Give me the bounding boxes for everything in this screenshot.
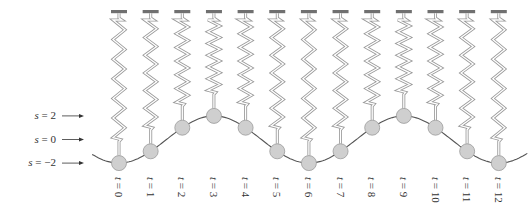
mass-12 <box>491 156 506 171</box>
arrow-head-icon <box>79 114 84 118</box>
mass-8 <box>365 120 380 135</box>
mount-bar <box>428 10 444 13</box>
level-label-s2: s = 2 <box>35 109 57 121</box>
mass-5 <box>270 144 285 159</box>
mass-1 <box>143 144 158 159</box>
spring-11 <box>459 10 475 144</box>
arrow-head-icon <box>79 161 84 165</box>
mount-bar <box>301 10 317 13</box>
spring-5 <box>269 10 285 144</box>
time-label-t4: t = 4 <box>240 177 252 197</box>
mass-6 <box>301 156 316 171</box>
level-label-s-2: s = −2 <box>28 156 56 168</box>
time-label-t10: t = 10 <box>430 177 442 203</box>
mass-10 <box>428 120 443 135</box>
time-label-t8: t = 8 <box>366 177 378 197</box>
spring-8 <box>364 10 380 120</box>
mount-bar <box>364 10 380 13</box>
spring-0 <box>111 10 127 156</box>
mount-bar <box>238 10 254 13</box>
mass-7 <box>333 144 348 159</box>
mount-bar <box>459 10 475 13</box>
mass-0 <box>112 156 127 171</box>
spring-mass-diagram <box>0 0 530 209</box>
time-label-t11: t = 11 <box>461 177 473 202</box>
mount-bar <box>174 10 190 13</box>
time-label-t9: t = 9 <box>398 177 410 197</box>
mount-bar <box>396 10 412 13</box>
mount-bar <box>111 10 127 13</box>
spring-3 <box>206 10 222 108</box>
level-arrows <box>62 114 84 165</box>
mount-bar <box>269 10 285 13</box>
mass-9 <box>396 108 411 123</box>
time-label-t6: t = 6 <box>303 177 315 197</box>
spring-9 <box>396 10 412 108</box>
spring-10 <box>428 10 444 120</box>
mass-11 <box>460 144 475 159</box>
spring-1 <box>143 10 159 144</box>
spring-6 <box>301 10 317 156</box>
time-label-t0: t = 0 <box>113 177 125 197</box>
mass-2 <box>175 120 190 135</box>
mount-bar <box>333 10 349 13</box>
mount-bar <box>491 10 507 13</box>
spring-12 <box>491 10 507 156</box>
mount-bar <box>143 10 159 13</box>
spring-2 <box>174 10 190 120</box>
springs-group <box>111 10 507 156</box>
time-label-t3: t = 3 <box>208 177 220 197</box>
spring-4 <box>238 10 254 120</box>
time-label-t7: t = 7 <box>335 177 347 197</box>
time-label-t12: t = 12 <box>493 177 505 203</box>
time-label-t2: t = 2 <box>176 177 188 197</box>
mount-bar <box>206 10 222 13</box>
mass-4 <box>238 120 253 135</box>
spring-7 <box>333 10 349 144</box>
mass-3 <box>206 108 221 123</box>
time-label-t5: t = 5 <box>271 177 283 197</box>
time-label-t1: t = 1 <box>145 177 157 197</box>
arrow-head-icon <box>79 138 84 142</box>
level-label-s0: s = 0 <box>35 133 57 145</box>
